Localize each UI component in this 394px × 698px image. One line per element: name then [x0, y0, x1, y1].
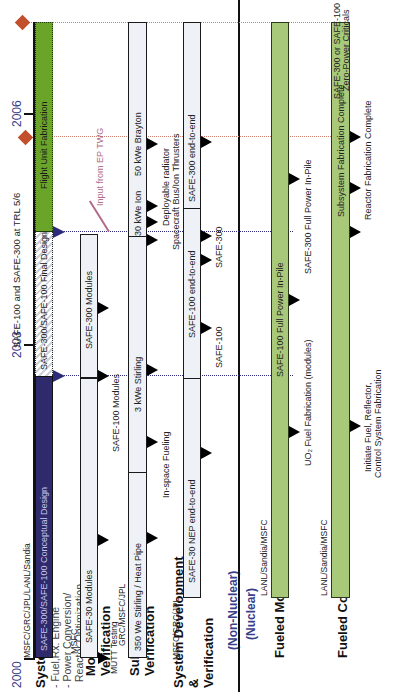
milestone-triangle-icon: [289, 426, 300, 438]
bar-safe30-modules-label: SAFE-30 Modules: [85, 570, 94, 643]
ref-line-flight-fab-start: [33, 231, 293, 232]
bar-50kwe-brayton-label: 50 kWe Brayton: [134, 112, 143, 176]
sysdev-safe100-label: SAFE-100: [215, 326, 224, 368]
milestone-triangle-icon: [201, 230, 212, 242]
bar-safe300-end-to-end-label: SAFE-300 end-to-end: [188, 114, 197, 202]
nuclear-label: (Nuclear): [244, 588, 258, 640]
bar-30kwe-ion-label: 30 kWe Ion: [134, 191, 143, 236]
milestone-triangle-icon: [289, 173, 300, 185]
bar-ion-brayton: 30 kWe Ion 50 kWe Brayton: [128, 22, 147, 236]
bar-conceptual-design: SAFE-300/SAFE-100 Conceptual Design: [35, 376, 53, 658]
bar-safe30-nep-label: SAFE-30 NEP end-to-end: [188, 480, 197, 583]
phase-arrow-icon: [53, 370, 65, 382]
sysdev-org: MSFC/GRC/JPL: [172, 598, 181, 660]
milestone-triangle-icon: [201, 254, 212, 266]
bar-flight-unit-fabrication-label: Flight Unit Fabrication: [40, 101, 49, 189]
bar-safe100-full-power-label: SAFE-100 Full Power In-Pile: [276, 262, 285, 377]
end-milestone-diamond-icon: [15, 15, 31, 31]
bar-safe30-nep: SAFE-30 NEP end-to-end: [183, 378, 201, 598]
milestone-triangle-icon: [147, 436, 158, 448]
bar-350we-stirling: 350 We Stirling / Heat Pipe: [128, 472, 147, 658]
milestone-triangle-icon: [147, 364, 158, 376]
timeline-chart: System Design - Fuel,Rx. Engine - Power …: [0, 0, 394, 698]
bar-350we-stirling-label: 350 We Stirling / Heat Pipe: [134, 543, 143, 651]
bar-3kwe-stirling-label: 3 kWe Stirling: [134, 357, 143, 412]
bar-3kwe-stirling: 3 kWe Stirling: [128, 236, 147, 472]
year-2003-tick: [24, 344, 33, 346]
milestone-triangle-icon: [98, 302, 109, 314]
year-2006-label: 2006: [10, 100, 24, 127]
key-milestone-label: SAFE-100 and SAFE-300 at TRL 5/6: [12, 193, 22, 348]
fueled-module-uo2-label: UO₂ Fuel Fabrication (modules): [304, 339, 313, 466]
phase-arrow-icon: [53, 226, 65, 238]
trl-milestone-diamond-icon: [18, 130, 34, 146]
year-2000-tick: [24, 658, 33, 660]
bar-safe300-modules-label: SAFE-300 Modules: [85, 271, 94, 349]
milestone-triangle-icon: [98, 534, 109, 546]
milestone-triangle-icon: [350, 420, 361, 432]
module-org: MSFC: [70, 629, 79, 655]
ref-line-final-design-start: [33, 375, 293, 376]
milestone-triangle-icon: [98, 370, 109, 382]
fueled-core-org: LANL/Sandia/MSFC: [320, 519, 329, 596]
sysdev-title-3: Verification: [202, 557, 217, 689]
bar-subsystem-fab-complete-label: Subsystem Fabrication Complete: [337, 84, 346, 217]
fueled-core-initiate-label-2: Control System Fabrication: [374, 369, 383, 478]
system-design-baseline: [33, 22, 35, 660]
milestone-triangle-icon: [350, 226, 361, 238]
bar-fueled-core: Subsystem Fabrication Complete SAFE-300 …: [331, 22, 350, 598]
fueled-core-initiate-label-1: Initiate Fuel, Reflector,: [364, 382, 373, 472]
milestone-triangle-icon: [147, 234, 158, 246]
milestone-triangle-icon: [98, 652, 109, 664]
milestone-triangle-icon: [289, 294, 300, 306]
bar-safe100-end-to-end-label: SAFE-100 end-to-end: [188, 250, 197, 338]
system-design-org: MSFC/GRC/JPL/LANL/Sandia: [23, 543, 32, 658]
bar-safe300-modules: SAFE-300 Modules: [80, 234, 98, 378]
milestone-triangle-icon: [147, 200, 158, 212]
fueled-module-safe300-label: SAFE-300 Full Power In-Pile: [304, 159, 313, 274]
milestone-triangle-icon: [350, 131, 361, 143]
milestone-triangle-icon: [201, 136, 212, 148]
subsystem-inspace-fueling-label: In-space Fueling: [162, 431, 171, 498]
bar-safe100-end-to-end: SAFE-100 end-to-end: [183, 208, 201, 378]
bar-conceptual-design-label: SAFE-300/SAFE-100 Conceptual Design: [40, 487, 49, 651]
input-from-ep-twg-label: Input from EP TWG: [96, 128, 105, 206]
milestone-triangle-icon: [147, 532, 158, 544]
subsystem-radiator-label: Deployable radiator: [162, 148, 171, 226]
year-2006-tick: [24, 113, 33, 115]
bar-final-design-label: SAFE-300/SAFE-100 Final Design: [40, 232, 49, 370]
nuclear-divider-line: [238, 0, 240, 692]
milestone-triangle-icon: [350, 182, 361, 194]
subsystem-org: GRC/MSFC/JPL: [118, 584, 127, 646]
bar-safe300-end-to-end: SAFE-300 end-to-end: [183, 22, 201, 208]
bar-flight-unit-fabrication: Flight Unit Fabrication: [35, 22, 53, 232]
bar-safe30-modules: SAFE-30 Modules: [80, 378, 98, 658]
milestone-triangle-icon: [201, 447, 212, 459]
milestone-triangle-icon: [201, 322, 212, 334]
sysdev-safe300-label: SAFE-300: [215, 226, 224, 268]
milestone-triangle-icon: [147, 138, 158, 150]
milestone-triangle-icon: [147, 216, 158, 228]
subsystem-bus-label: Spacecraft Bus/Ion Thrusters: [172, 134, 181, 250]
bar-final-design: SAFE-300/SAFE-100 Final Design: [35, 232, 53, 376]
bar-zero-power-label-2: Zero-Power Criticals: [342, 9, 351, 91]
module-safe100-label: SAFE-100 Modules: [112, 374, 121, 452]
bar-safe100-full-power: SAFE-100 Full Power In-Pile: [271, 22, 289, 598]
year-2000-label: 2000: [10, 661, 24, 688]
fueled-module-org: LANL/Sandia/MSFC: [260, 519, 269, 596]
fueled-core-reactor-complete-label: Reactor Fabrication Complete: [364, 100, 373, 220]
